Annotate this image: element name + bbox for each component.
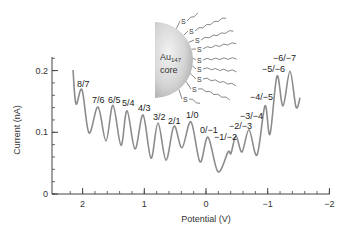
ligand-bond [186,82,191,89]
ligand-bond [193,58,196,60]
peak-label: 6/5 [108,95,121,105]
y-tick-label: 0.2 [35,66,48,76]
peak-label: 1/0 [186,110,199,120]
y-tick-label: 0 [43,189,48,199]
ligand-bond [189,40,194,42]
peak-label: −3/−4 [240,111,263,121]
x-tick-label: 2 [80,199,85,209]
sulfur-atom-label: S [183,96,188,103]
sulfur-atom-label: S [195,37,200,44]
ligand-bond [176,21,180,29]
ligand-bond [193,66,196,69]
dpv-chart: Au147 core SSSSSSSSS 210−1−200.10.2 8/77… [0,0,355,231]
ligand-bond [184,31,188,35]
alkyl-chain [187,13,198,21]
sulfur-atom-label: S [192,86,197,93]
sulfur-atom-label: S [197,46,202,53]
x-tick-label: 0 [203,199,208,209]
sulfur-atom-label: S [197,66,202,73]
alkyl-chain [195,18,226,31]
peak-label: 4/3 [138,103,151,113]
peak-label: 8/7 [77,79,90,89]
peak-label: −4/−5 [250,92,273,102]
peak-label: −1/−2 [214,132,237,142]
x-tick-label: −2 [324,199,334,209]
y-axis-title: Current (nA) [12,105,22,155]
peak-label: 7/6 [92,95,105,105]
x-axis-title: Potential (V) [181,214,231,224]
y-tick-label: 0.1 [35,127,48,137]
x-tick-label: −1 [263,199,273,209]
peak-label: 5/4 [122,98,135,108]
peak-label: −2/−3 [229,121,252,131]
peak-label: −5/−6 [262,64,285,74]
sulfur-atom-label: S [189,28,194,35]
data-series [73,70,300,172]
ligand-bond [179,90,182,99]
dpv-curve [73,70,300,172]
ligand-bond [190,74,196,79]
alkyl-chain [201,31,233,40]
sulfur-atom-label: S [197,76,202,83]
x-tick-label: 1 [142,199,147,209]
peak-label: −6/−7 [273,53,296,63]
peak-label: 3/2 [153,112,166,122]
alkyl-chain [203,43,236,49]
core-label-core: core [160,65,178,75]
alkyl-chain [203,68,237,72]
alkyl-chain [198,89,230,100]
nanoparticle-inset: Au147 core SSSSSSSSS [155,13,237,103]
sulfur-atom-label: S [181,18,186,25]
alkyl-chain [189,99,200,103]
alkyl-chain [203,58,237,60]
peak-label: 2/1 [168,116,181,126]
alkyl-chain [203,78,236,86]
sulfur-atom-label: S [197,57,202,64]
